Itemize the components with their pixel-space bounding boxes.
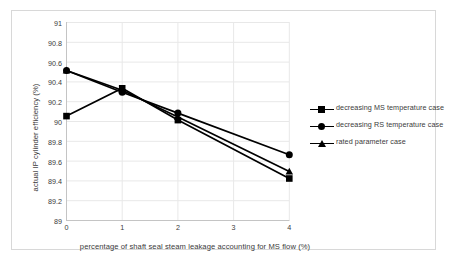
x-tick-label: 2 <box>168 223 188 232</box>
x-tick-label: 4 <box>279 223 299 232</box>
triangle-marker-icon <box>310 138 334 149</box>
x-axis-title: percentage of shaft seal steam leakage a… <box>70 242 320 251</box>
x-tick-label: 0 <box>57 223 77 232</box>
square-marker-icon <box>310 104 334 115</box>
legend-item-decreasing-ms-temperature[interactable]: decreasing MS temperature case <box>310 103 450 115</box>
y-axis-title: actual IP cylinder efficiency (%) <box>31 53 40 223</box>
chart-legend: decreasing MS temperature case decreasin… <box>310 103 450 154</box>
legend-item-rated-parameter[interactable]: rated parameter case <box>310 137 450 149</box>
circle-marker-icon <box>310 121 334 132</box>
x-tick-label: 3 <box>224 223 244 232</box>
legend-item-label: decreasing MS temperature case <box>336 103 444 113</box>
chart-frame: 91 90.8 90.6 90.4 90.2 90 89.8 89.6 89.4… <box>11 10 436 250</box>
chart-figure: 91 90.8 90.6 90.4 90.2 90 89.8 89.6 89.4… <box>0 0 452 267</box>
y-tick-label: 90.8 <box>34 39 62 48</box>
legend-item-label: decreasing RS temperature case <box>336 120 443 130</box>
x-tick-label: 1 <box>112 223 132 232</box>
legend-item-label: rated parameter case <box>336 137 406 147</box>
y-tick-label: 91 <box>34 19 62 28</box>
legend-item-decreasing-rs-temperature[interactable]: decreasing RS temperature case <box>310 120 450 132</box>
